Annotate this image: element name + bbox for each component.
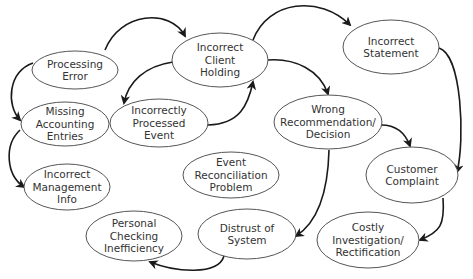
node-label-line: Error [62,70,88,82]
node-label-line: Rectification [335,246,400,258]
node-label-line: Reconciliation [194,169,267,181]
node-label-line: Complaint [385,175,439,187]
node-label-line: Inefficiency [104,242,164,254]
node-label-line: Wrong [311,103,345,115]
arrow-incorrect-client-holding-to-incorrect-statement [253,6,350,40]
arrow-wrong-recommendation-decision-to-customer-complaint [381,125,410,146]
node-label-line: Event [216,156,246,168]
node-distrust-of-system: Distrust ofSystem [198,209,296,259]
node-costly-investigation-rectification: CostlyInvestigation/Rectification [317,212,419,268]
node-label-line: Distrust of [220,222,275,234]
node-label-line: Incorrect [368,35,415,47]
node-label-line: Statement [363,47,418,59]
nodes-layer: ProcessingErrorIncorrectClientHoldingInc… [21,20,458,268]
node-incorrect-management-info: IncorrectManagementInfo [24,164,110,210]
node-incorrectly-processed-event: IncorrectlyProcessedEvent [110,99,208,147]
node-customer-complaint: CustomerComplaint [366,147,458,203]
node-label-line: Event [144,129,174,141]
node-label-line: Recommendation/ [280,116,376,128]
arrow-customer-complaint-to-costly-investigation-rectification [420,198,443,240]
node-personal-checking-inefficiency: PersonalCheckingInefficiency [86,211,182,261]
node-label-line: Client [205,54,235,66]
node-label-line: Processed [133,117,186,129]
node-label-line: Customer [386,163,438,175]
node-label-line: Incorrect [44,168,91,180]
node-missing-accounting-entries: MissingAccountingEntries [21,102,109,146]
node-label-line: Management [32,181,101,193]
cause-effect-diagram: ProcessingErrorIncorrectClientHoldingInc… [0,0,473,279]
node-label-line: Personal [112,217,157,229]
node-label-line: Holding [200,66,240,78]
arrow-incorrectly-processed-event-to-incorrect-client-holding [208,82,253,125]
arrow-incorrect-client-holding-to-incorrectly-processed-event [124,62,173,103]
node-label-line: Problem [210,181,253,193]
node-incorrect-client-holding: IncorrectClientHolding [172,33,268,87]
node-label-line: Missing [45,105,84,117]
arrow-wrong-recommendation-decision-to-distrust-of-system [296,150,329,236]
node-label-line: Processing [47,58,103,70]
arrow-incorrect-client-holding-to-wrong-recommendation-decision [268,60,328,94]
arrow-distrust-of-system-to-personal-checking-inefficiency [150,256,224,270]
node-event-reconciliation-problem: EventReconciliationProblem [183,152,279,198]
node-incorrect-statement: IncorrectStatement [343,20,439,74]
node-label-line: Checking [110,230,159,242]
arrow-missing-accounting-entries-to-incorrect-management-info [9,130,24,187]
node-label-line: Info [57,193,77,205]
node-wrong-recommendation-decision: WrongRecommendation/Decision [274,95,382,149]
node-label-line: Investigation/ [332,234,404,246]
node-label-line: Accounting [36,118,95,130]
node-label-line: Decision [306,128,351,140]
node-label-line: Incorrectly [131,104,187,116]
node-label-line: Incorrect [197,41,244,53]
node-processing-error: ProcessingError [32,51,118,89]
node-label-line: Costly [352,221,384,233]
arrow-processing-error-to-incorrect-client-holding [105,18,185,50]
node-label-line: Entries [47,130,84,142]
node-label-line: System [227,234,266,246]
